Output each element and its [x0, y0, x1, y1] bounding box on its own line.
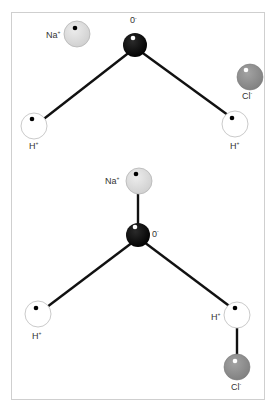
hydrogen-right-label: H+ — [230, 140, 240, 151]
hydrogen-atom-left — [21, 113, 47, 139]
bond-o-h-right — [144, 242, 232, 308]
hydrogen-atom-right — [224, 302, 250, 328]
bond-o-h-left — [36, 51, 131, 125]
bottom-molecule: Na+ 0- H+ H+ Cl- — [25, 168, 250, 392]
chloride-ion-atom — [237, 64, 263, 90]
chloride-label: Cl- — [231, 381, 242, 392]
oxygen-atom — [126, 223, 150, 247]
molecule-diagram: Na+ 0- Cl- H+ H+ — [0, 0, 271, 403]
bond-o-h-right — [140, 51, 232, 118]
hydrogen-left-label: H+ — [32, 330, 42, 341]
sodium-ion-atom — [126, 168, 152, 194]
bond-o-h-left — [47, 242, 133, 307]
top-molecule: Na+ 0- Cl- H+ H+ — [21, 15, 263, 151]
hydrogen-atom-right — [222, 111, 248, 137]
sodium-label: Na+ — [46, 29, 61, 40]
sodium-ion-atom — [64, 21, 90, 47]
hydrogen-atom-left — [25, 301, 51, 327]
hydrogen-left-label: H+ — [29, 140, 39, 151]
sodium-label: Na+ — [105, 175, 120, 186]
chloride-ion-atom — [224, 354, 250, 380]
oxygen-label: 0- — [130, 15, 137, 25]
oxygen-label: 0- — [152, 228, 159, 239]
oxygen-atom — [123, 33, 147, 57]
hydrogen-right-label: H+ — [211, 311, 221, 322]
chloride-label: Cl- — [242, 90, 253, 101]
